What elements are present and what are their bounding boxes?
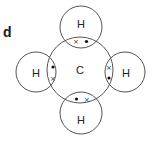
part-label: d: [3, 24, 12, 40]
dot-electron-bottom: [75, 97, 78, 100]
dot-electron-left: [51, 65, 54, 68]
hydrogen-shell-bottom: [60, 92, 102, 134]
hydrogen-symbol-left: H: [32, 67, 40, 79]
cross-electron-top: ×: [73, 38, 79, 46]
methane-dot-cross-diagram: d C H H H H × × × ×: [0, 0, 155, 146]
carbon-symbol: C: [76, 64, 84, 76]
dot-electron-right: [107, 76, 110, 79]
cross-electron-bottom: ×: [84, 96, 90, 104]
hydrogen-symbol-bottom: H: [77, 114, 85, 126]
dot-electron-top: [85, 40, 88, 43]
cross-electron-left: ×: [50, 75, 56, 83]
hydrogen-symbol-top: H: [77, 18, 85, 30]
hydrogen-symbol-right: H: [122, 67, 130, 79]
cross-electron-right: ×: [106, 64, 112, 72]
